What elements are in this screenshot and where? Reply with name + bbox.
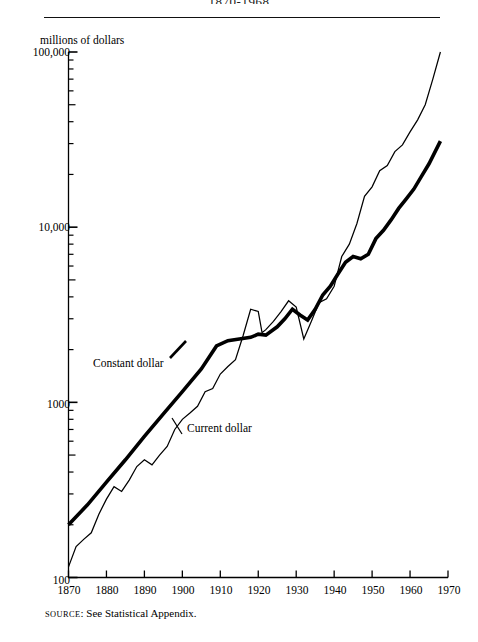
figure-container: 1870-1968 millions of dollars 100,000 10… — [0, 0, 478, 642]
x-axis-ticks — [69, 571, 449, 578]
axes-group — [68, 52, 448, 578]
source-note: SOURCE: See Statistical Appendix. — [45, 607, 197, 619]
plot-area — [0, 0, 478, 642]
series-line-current-dollar — [69, 52, 441, 567]
source-prefix: SOURCE — [45, 610, 80, 619]
leader-line-constant-dollar — [170, 341, 186, 358]
source-text: See Statistical Appendix. — [86, 607, 196, 619]
series-line-constant-dollar — [69, 141, 441, 525]
y-axis-ticks — [69, 52, 78, 578]
